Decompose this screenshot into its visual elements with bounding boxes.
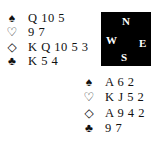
south-hearts-cards: K J 5 2	[105, 90, 144, 104]
club-icon: ♣	[6, 54, 18, 68]
compass-south: S	[121, 51, 127, 63]
compass-west: W	[106, 34, 117, 46]
spade-icon: ♠	[83, 75, 95, 89]
compass-north: N	[122, 15, 130, 27]
west-hearts-cards: 9 7	[28, 25, 45, 39]
west-clubs-cards: K 5 4	[28, 54, 58, 68]
diamond-icon: ◇	[83, 106, 95, 120]
heart-icon: ♡	[83, 90, 95, 104]
heart-icon: ♡	[6, 25, 18, 39]
south-diamonds-cards: A 9 4 2	[105, 106, 145, 120]
west-diamonds-cards: K Q 10 5 3	[28, 40, 89, 54]
west-spades-cards: Q 10 5	[28, 11, 65, 25]
diamond-icon: ◇	[6, 40, 18, 54]
club-icon: ♣	[83, 121, 95, 135]
south-clubs-cards: 9 7	[105, 121, 122, 135]
compass-box: N W E S	[101, 12, 151, 66]
south-spades-cards: A 6 2	[105, 75, 135, 89]
spade-icon: ♠	[6, 11, 18, 25]
compass-east: E	[139, 37, 146, 49]
